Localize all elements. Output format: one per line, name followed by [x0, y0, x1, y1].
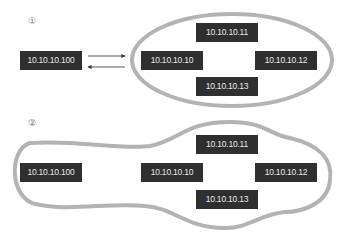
diagram-2-number: ② — [28, 118, 36, 128]
node-external-2: 10.10.10.100 — [20, 163, 82, 182]
node-12-1: 10.10.10.12 — [255, 51, 317, 70]
node-10-1: 10.10.10.10 — [141, 51, 203, 70]
node-11-1: 10.10.10.11 — [196, 23, 258, 42]
node-10-2: 10.10.10.10 — [141, 163, 203, 182]
node-12-2: 10.10.10.12 — [255, 163, 317, 182]
node-13-2: 10.10.10.13 — [196, 190, 258, 209]
node-external-1: 10.10.10.100 — [20, 51, 82, 70]
node-13-1: 10.10.10.13 — [196, 77, 258, 96]
diagram-canvas — [0, 0, 338, 235]
diagram-1-number: ① — [28, 16, 36, 26]
node-11-2: 10.10.10.11 — [196, 135, 258, 154]
